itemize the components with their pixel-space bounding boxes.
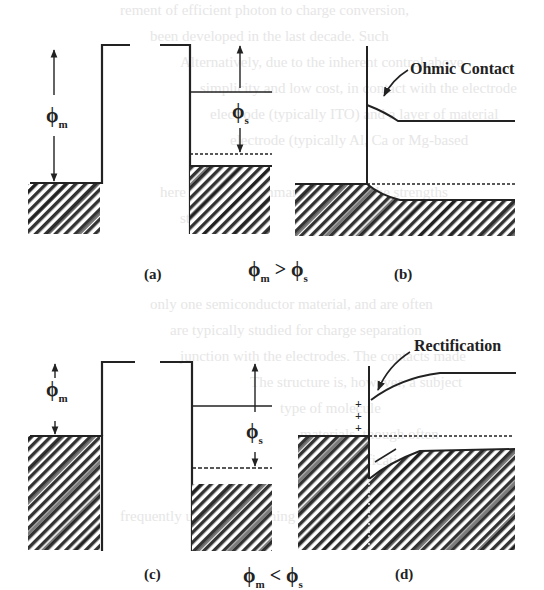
- panel-label-d: (d): [395, 566, 413, 583]
- row-caption-bottom: ϕm < ϕs: [243, 564, 303, 590]
- ohmic-contact-label: Ohmic Contact: [410, 60, 514, 78]
- phi-s-label-c: ϕs: [246, 420, 263, 446]
- panel-d: [298, 352, 516, 550]
- panel-a: [28, 45, 272, 234]
- semiconductor-outline: [160, 362, 192, 551]
- panel-label-b: (b): [394, 266, 412, 283]
- phi-m-label-c: ϕm: [46, 378, 68, 404]
- rectification-pointer-arrow: [378, 352, 410, 390]
- panel-label-a: (a): [144, 266, 162, 283]
- positive-charges: +++: [355, 398, 363, 434]
- ohmic-contact-pointer-arrow: [384, 70, 408, 96]
- phi-s-label-a: ϕs: [232, 100, 249, 126]
- diagram-figure: rement of efficient photon to charge con…: [0, 0, 544, 590]
- rectification-label: Rectification: [414, 337, 501, 355]
- semiconductor-vacuum-outline: [160, 45, 190, 234]
- conduction-band-curve: [371, 373, 516, 400]
- metal-vacuum-outline: [30, 45, 130, 183]
- panel-label-c: (c): [144, 566, 161, 583]
- conduction-band-curve: [367, 105, 515, 121]
- band-diagram-svg: [0, 0, 544, 590]
- phi-m-label-a: ϕm: [46, 104, 68, 130]
- row-caption-top: ϕm > ϕs: [248, 258, 308, 284]
